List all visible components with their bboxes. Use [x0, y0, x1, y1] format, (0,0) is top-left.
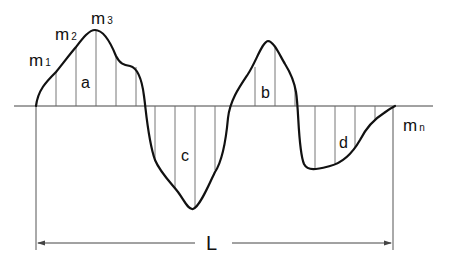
curve — [36, 30, 395, 209]
area-label-b: b — [261, 85, 270, 101]
label-m3: m3 — [91, 10, 113, 27]
label-m2-main: m — [55, 25, 69, 44]
label-m3-sub: 3 — [107, 15, 113, 26]
label-m1-sub: 1 — [45, 57, 51, 68]
label-mn-main: m — [403, 116, 417, 135]
area-label-a: a — [81, 75, 90, 91]
arrowhead-left-icon — [37, 241, 45, 246]
label-m1: m1 — [29, 52, 51, 69]
label-m2: m2 — [55, 26, 77, 43]
label-m3-main: m — [91, 9, 105, 28]
label-m2-sub: 2 — [71, 31, 77, 42]
label-mn-sub: n — [419, 122, 425, 133]
label-m1-main: m — [29, 51, 43, 70]
length-label: L — [200, 233, 223, 253]
arrowhead-right-icon — [384, 241, 392, 246]
area-label-c: c — [181, 148, 189, 164]
label-mn: mn — [403, 117, 425, 134]
area-label-d: d — [339, 135, 348, 151]
